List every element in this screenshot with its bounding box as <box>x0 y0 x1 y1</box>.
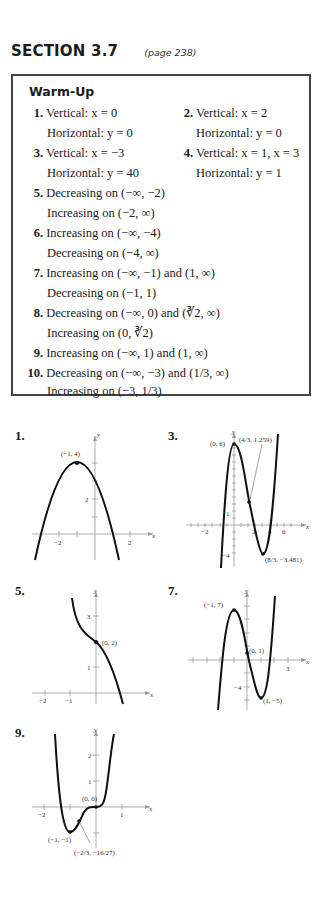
svg-text:(0, 6): (0, 6) <box>210 440 226 448</box>
svg-text:(4/3, 1.259): (4/3, 1.259) <box>239 436 273 444</box>
answer-text: Vertical: x = −3 <box>46 146 124 160</box>
answer-text: Vertical: x = 2 <box>196 106 267 120</box>
graph-1: y x −2 2 2 (−1, 4) <box>28 430 158 565</box>
svg-text:x: x <box>305 523 310 531</box>
svg-text:y: y <box>93 590 98 595</box>
svg-text:1: 1 <box>88 778 92 786</box>
section-page-ref: (page 238) <box>144 47 196 58</box>
graph-number: 3. <box>168 428 178 444</box>
svg-text:x: x <box>148 805 153 813</box>
svg-text:2: 2 <box>128 539 132 547</box>
warmup-item-5: 5. Decreasing on (−∞, −2) <box>29 186 165 200</box>
warmup-item-9: 9. Increasing on (−∞, 1) and (1, ∞) <box>29 346 208 360</box>
warmup-item-4-line-2: Horizontal: y = 1 <box>196 166 282 180</box>
warmup-item-2-line-2: Horizontal: y = 0 <box>196 126 282 140</box>
svg-text:−2: −2 <box>38 811 46 819</box>
svg-text:2: 2 <box>85 496 89 504</box>
svg-text:y: y <box>96 431 101 439</box>
graph-5: y x −2 −1 3 1 (0, 2) <box>28 590 158 710</box>
graph-number: 1. <box>15 428 25 444</box>
answer-text: Vertical: x = 0 <box>46 106 117 120</box>
svg-text:−4: −4 <box>234 684 242 692</box>
answer-text: Decreasing on (−∞, 0) and (∛2, ∞) <box>46 306 220 320</box>
svg-text:−4: −4 <box>222 552 230 560</box>
section-header: SECTION 3.7 (page 238) <box>11 42 196 60</box>
warmup-box: Warm-Up 1. Vertical: x = 0 Horizontal: y… <box>11 74 311 396</box>
svg-text:−2: −2 <box>54 539 62 547</box>
warmup-item-10-line-2: Increasing on (−3, 1/3) <box>47 384 162 398</box>
svg-text:(−1, 4): (−1, 4) <box>61 450 81 458</box>
svg-text:y: y <box>93 728 98 734</box>
answer-text: Increasing on (−∞, 1) and (1, ∞) <box>46 346 208 360</box>
svg-text:−2: −2 <box>201 528 209 536</box>
warmup-item-7: 7. Increasing on (−∞, −1) and (1, ∞) <box>29 266 215 280</box>
svg-text:−1: −1 <box>65 697 73 705</box>
warmup-item-6-line-2: Decreasing on (−4, ∞) <box>47 246 159 260</box>
svg-text:x: x <box>305 658 310 666</box>
svg-text:2: 2 <box>88 752 92 760</box>
warmup-item-8-line-2: Increasing on (0, ∛2) <box>47 326 153 340</box>
graph-9: y x −2 1 2 1 (0, 0) (−1, −1) (−2/3, −16/… <box>28 728 158 863</box>
answer-text: Decreasing on (−∞, −2) <box>46 186 165 200</box>
warmup-item-7-line-2: Decreasing on (−1, 1) <box>47 286 156 300</box>
svg-text:(0, 2): (0, 2) <box>102 639 118 647</box>
warmup-item-4: 4. Vertical: x = 1, x = 3 <box>179 146 299 160</box>
warmup-item-5-line-2: Increasing on (−2, ∞) <box>47 206 155 220</box>
svg-text:(1, −5): (1, −5) <box>263 697 283 705</box>
svg-text:6: 6 <box>282 528 286 536</box>
svg-text:3: 3 <box>87 613 91 621</box>
graph-number: 5. <box>15 583 25 599</box>
warmup-item-1-line-2: Horizontal: y = 0 <box>47 126 133 140</box>
svg-text:(−1, 7): (−1, 7) <box>204 601 224 609</box>
svg-text:(−1, −1): (−1, −1) <box>48 836 72 844</box>
warmup-item-10: 10. Decreasing on (−∞, −3) and (1/3, ∞) <box>22 366 229 380</box>
answer-text: Increasing on (−∞, −1) and (1, ∞) <box>46 266 215 280</box>
warmup-item-6: 6. Increasing on (−∞, −4) <box>29 226 161 240</box>
graph-7: y x 3 −4 (−1, 7) (0, 1) (1, −5) <box>184 590 321 715</box>
section-title: SECTION 3.7 <box>11 42 118 60</box>
svg-text:3: 3 <box>286 665 290 673</box>
warmup-item-1: 1. Vertical: x = 0 <box>29 106 117 120</box>
warmup-item-8: 8. Decreasing on (−∞, 0) and (∛2, ∞) <box>29 306 220 320</box>
warmup-title: Warm-Up <box>29 84 94 99</box>
svg-text:y: y <box>244 590 249 595</box>
svg-text:y: y <box>231 430 236 436</box>
warmup-item-3: 3. Vertical: x = −3 <box>29 146 124 160</box>
svg-text:x: x <box>149 691 154 699</box>
graph-3: y x −2 2 4 6 1 −4 (0, 6) (4/3, 1.259) (8… <box>184 430 321 570</box>
graph-number: 7. <box>168 583 178 599</box>
answer-text: Increasing on (−∞, −4) <box>46 226 161 240</box>
svg-text:(0, 1): (0, 1) <box>249 647 265 655</box>
answer-text: Decreasing on (−∞, −3) and (1/3, ∞) <box>46 366 229 380</box>
answer-text: Vertical: x = 1, x = 3 <box>196 146 299 160</box>
svg-text:x: x <box>151 532 156 540</box>
svg-text:1: 1 <box>226 510 230 518</box>
warmup-item-3-line-2: Horizontal: y = 40 <box>47 166 139 180</box>
graph-number: 9. <box>15 725 25 741</box>
svg-text:1: 1 <box>120 811 124 819</box>
svg-text:(0, 0): (0, 0) <box>82 795 98 803</box>
svg-text:(8/3, −3.481): (8/3, −3.481) <box>265 556 302 564</box>
svg-text:(−2/3, −16/27): (−2/3, −16/27) <box>74 849 116 857</box>
svg-text:1: 1 <box>87 664 91 672</box>
svg-text:−2: −2 <box>39 697 47 705</box>
warmup-item-2: 2. Vertical: x = 2 <box>179 106 267 120</box>
